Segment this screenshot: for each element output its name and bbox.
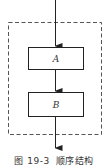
- figure-caption: 图 19-3顺序结构: [0, 154, 108, 167]
- process-box-b-label: B: [52, 100, 60, 110]
- process-box-b: B: [29, 93, 84, 117]
- sequential-structure-diagram: A B: [0, 0, 108, 168]
- figure-title: 顺序结构: [56, 156, 94, 166]
- process-box-a-label: A: [52, 54, 60, 64]
- figure-number: 图 19-3: [14, 156, 49, 166]
- process-box-a: A: [29, 48, 84, 70]
